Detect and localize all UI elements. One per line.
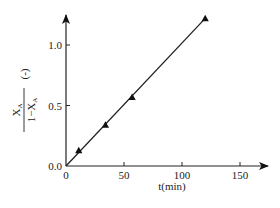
fit-line: [66, 18, 205, 166]
y-label-denominator: 1−X: [25, 103, 37, 123]
y-axis-label: XA 1−XA (-): [10, 68, 39, 132]
x-tick-label: 0: [63, 169, 69, 181]
y-tick-label: 0.5: [48, 100, 62, 112]
y-ticks: 0.00.51.0: [48, 39, 70, 172]
y-tick-label: 0.0: [48, 160, 62, 172]
x-axis-label: t(min): [158, 180, 186, 193]
x-tick-label: 50: [119, 169, 131, 181]
chart: 050100150 0.00.51.0 t(min) XA 1−XA (-): [0, 0, 280, 208]
y-label-unit: (-): [18, 68, 31, 79]
y-label-denominator-sub: A: [31, 98, 39, 103]
y-tick-label: 1.0: [48, 39, 62, 51]
svg-text:XA: XA: [10, 103, 24, 116]
y-label-numerator-sub: A: [16, 103, 24, 108]
svg-text:1−XA: 1−XA: [25, 98, 39, 123]
x-ticks: 050100150: [63, 162, 249, 181]
x-tick-label: 150: [232, 169, 249, 181]
data-series: [66, 15, 209, 166]
y-label-numerator: X: [10, 109, 22, 117]
data-point-triangle-icon: [129, 93, 136, 99]
data-point-triangle-icon: [202, 15, 209, 21]
